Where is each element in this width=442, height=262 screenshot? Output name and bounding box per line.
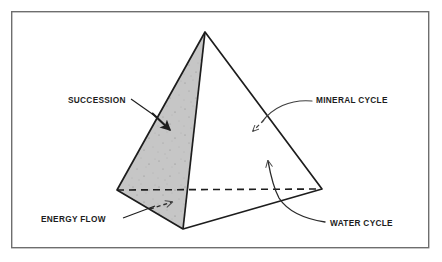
label-succession: SUCCESSION (68, 95, 126, 106)
right-face-open (183, 32, 322, 229)
label-water-cycle: WATER CYCLE (330, 218, 393, 229)
pyramid-diagram: SUCCESSION MINERAL CYCLE ENERGY FLOW WAT… (0, 0, 442, 262)
energy-flow-leader-line (123, 206, 155, 218)
figure-root: SUCCESSION MINERAL CYCLE ENERGY FLOW WAT… (0, 0, 442, 262)
label-energy-flow: ENERGY FLOW (41, 214, 106, 225)
hidden-base-edge-dashed (117, 189, 322, 190)
label-mineral-cycle: MINERAL CYCLE (316, 95, 388, 106)
